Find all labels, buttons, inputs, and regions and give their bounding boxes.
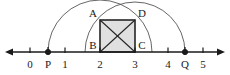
tick-label-4: 4: [165, 58, 171, 70]
geometry-canvas: 012345 PQ ADBC: [0, 0, 230, 75]
tick-label-2: 2: [97, 58, 103, 70]
square-abcd: [100, 20, 135, 52]
geometry-figure: 012345 PQ ADBC: [0, 0, 230, 75]
point-label-P: P: [45, 58, 51, 70]
point-dot-P: [45, 49, 50, 54]
axis-left-arrowhead: [5, 49, 13, 56]
tick-label-1: 1: [62, 58, 68, 70]
tick-label-5: 5: [200, 58, 206, 70]
vertex-label-D: D: [138, 7, 146, 19]
vertex-label-C: C: [138, 39, 145, 51]
point-dot-Q: [182, 49, 187, 54]
tick-label-0: 0: [27, 58, 33, 70]
axis-right-arrowhead: [217, 49, 225, 56]
vertex-label-B: B: [89, 39, 96, 51]
vertex-label-A: A: [89, 7, 97, 19]
point-label-Q: Q: [181, 58, 189, 70]
tick-label-3: 3: [132, 58, 138, 70]
tick-labels: 012345: [27, 58, 206, 70]
